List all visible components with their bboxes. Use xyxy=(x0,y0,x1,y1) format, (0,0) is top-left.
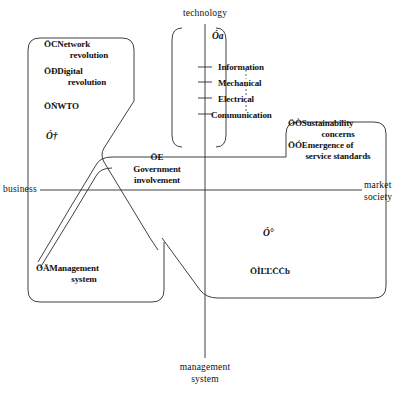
item-wto-marker: ÖÑ xyxy=(44,101,57,111)
item-service-standards-line1: Emergence of xyxy=(302,140,354,150)
item-network-revolution-line2: revolution xyxy=(50,50,128,60)
diagram-canvas: technology management system business ma… xyxy=(0,0,405,398)
item-service-standards: ÖÓEmergence of xyxy=(288,140,392,150)
item-lower-right-marker: ÖÌ xyxy=(250,266,260,276)
item-management-system: ÖÄManagement xyxy=(36,263,140,273)
government-box-top-left-curve xyxy=(38,157,112,262)
item-government-involvement-line2: involvement xyxy=(112,175,202,185)
lower-right-box xyxy=(162,190,386,298)
item-service-standards-marker: ÖÓ xyxy=(288,140,302,150)
item-digital-revolution-marker: ÖÐ xyxy=(44,66,57,76)
item-sustainability-concerns: ÖÒSustainability xyxy=(288,118,392,128)
axis-label-business: business xyxy=(3,184,57,195)
axis-label-society: society xyxy=(364,192,405,203)
axis-label-management-system-bottom-line2: system xyxy=(160,374,250,385)
item-government-involvement-marker: ÖE xyxy=(151,152,164,162)
item-wto: ÖÑWTO xyxy=(44,101,130,111)
item-sustainability-concerns-line1: Sustainability xyxy=(302,118,354,128)
item-sustainability-concerns-marker: ÖÒ xyxy=(288,118,302,128)
item-service-standards-line2: service standards xyxy=(288,151,388,161)
axis-label-technology: technology xyxy=(158,8,252,19)
item-network-revolution-marker: ÖC xyxy=(44,39,57,49)
tick-label-mechanical: Mechanical xyxy=(218,78,314,88)
axis-label-market: market xyxy=(364,180,405,191)
tick-label-information: Information xyxy=(218,62,314,72)
item-lower-right-line1: ĽĽĊĊb xyxy=(260,266,290,276)
marker-dagger-label: Ó† xyxy=(46,131,58,142)
item-management-system-marker: ÖÄ xyxy=(36,263,49,273)
item-management-system-line2: system xyxy=(36,274,132,284)
item-network-revolution: ÖCNetwork xyxy=(44,39,130,49)
item-government-involvement-line1: Government xyxy=(112,164,202,174)
item-wto-line1: WTO xyxy=(57,101,79,111)
item-lower-right: ÖÌĽĽĊĊb xyxy=(222,266,318,276)
item-sustainability-concerns-line2: concerns xyxy=(290,129,386,139)
item-digital-revolution: ÖÐDigital xyxy=(44,66,130,76)
marker-degree-label: Ó° xyxy=(263,228,274,239)
marker-a-label: Óa xyxy=(212,31,224,42)
item-digital-revolution-line2: revolution xyxy=(48,77,126,87)
item-management-system-line1: Management xyxy=(49,263,99,273)
item-digital-revolution-line1: Digital xyxy=(57,66,82,76)
management-system-box xyxy=(28,190,164,302)
technology-bracket-left xyxy=(172,28,182,147)
item-network-revolution-line1: Network xyxy=(57,39,90,49)
item-government-involvement-marker-row: ÖE xyxy=(118,152,196,162)
tick-label-electrical: Electrical xyxy=(218,94,314,104)
axis-label-management-system-bottom-line1: management xyxy=(160,362,250,373)
government-box-left xyxy=(40,168,112,268)
